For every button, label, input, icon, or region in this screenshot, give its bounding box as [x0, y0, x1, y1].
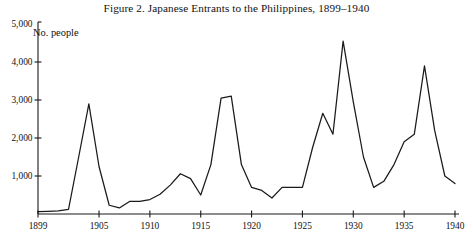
x-axis: 189919051910191519201925193019351940 — [29, 211, 465, 231]
x-axis-tick-label: 1899 — [29, 221, 48, 231]
y-axis-tick-label: 2,000 — [11, 133, 32, 143]
x-axis-tick-label: 1910 — [141, 221, 160, 231]
y-axis-tick-label: 5,000 — [11, 19, 32, 29]
series-line-no-people — [38, 41, 455, 212]
y-axis-tick-label: 4,000 — [11, 57, 32, 67]
x-axis-tick-label: 1915 — [191, 221, 210, 231]
figure-container: Figure 2. Japanese Entrants to the Phili… — [0, 0, 473, 249]
y-axis-unit-label: No. people — [33, 27, 79, 38]
data-series-line — [38, 41, 455, 212]
x-axis-tick-label: 1925 — [293, 221, 312, 231]
x-axis-tick-label: 1920 — [242, 221, 261, 231]
y-axis: 1,0002,0003,0004,0005,000 — [11, 19, 41, 214]
x-axis-tick-label: 1905 — [90, 221, 109, 231]
x-axis-tick-label: 1940 — [446, 221, 465, 231]
y-axis-tick-label: 1,000 — [11, 171, 32, 181]
y-axis-tick-label: 3,000 — [11, 95, 32, 105]
x-axis-tick-label: 1935 — [395, 221, 414, 231]
x-axis-tick-label: 1930 — [344, 221, 363, 231]
